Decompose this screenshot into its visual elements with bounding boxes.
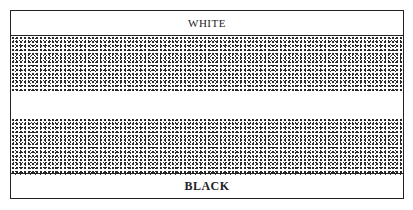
- lower-stippled-band: [11, 118, 403, 175]
- black-label-band: BLACK: [11, 173, 403, 198]
- diagram-frame: WHITE BLACK: [10, 10, 404, 199]
- black-label: BLACK: [184, 179, 229, 194]
- white-label-band: WHITE: [11, 11, 403, 36]
- white-label: WHITE: [188, 17, 226, 29]
- middle-white-gap: [11, 91, 403, 118]
- upper-stippled-band: [11, 36, 403, 91]
